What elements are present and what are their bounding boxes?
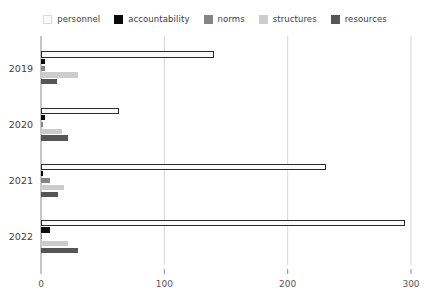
bar-2020-resources	[41, 135, 68, 140]
plot-area: 01002003002019202020212022	[0, 36, 430, 302]
bar-2022-structures	[41, 241, 68, 246]
legend-label-structures: structures	[273, 14, 317, 24]
bar-2020-norms	[41, 122, 43, 127]
bar-2020-accountability	[41, 115, 45, 120]
bar-2021-norms	[41, 178, 50, 183]
bar-2020-structures	[41, 129, 62, 134]
legend-label-personnel: personnel	[57, 14, 100, 24]
bar-2022-accountability	[41, 227, 50, 232]
legend-label-norms: norms	[218, 14, 245, 24]
bar-2021-resources	[41, 192, 58, 197]
legend-swatch-accountability	[114, 15, 123, 24]
legend-item-accountability[interactable]: accountability	[114, 14, 189, 24]
y-tick-label-2022: 2022	[9, 231, 33, 242]
bar-2022-personnel	[41, 221, 405, 226]
bar-2019-personnel	[41, 52, 214, 57]
bar-2021-accountability	[41, 171, 43, 176]
x-tick-label-200: 200	[279, 279, 296, 289]
grouped-bar-chart: personnel accountability norms structure…	[0, 0, 430, 302]
legend-item-structures[interactable]: structures	[259, 14, 317, 24]
bar-2022-norms	[41, 234, 42, 239]
legend-swatch-personnel	[43, 15, 52, 24]
bar-2020-personnel	[41, 108, 119, 113]
legend-swatch-resources	[331, 15, 340, 24]
legend-label-resources: resources	[345, 14, 387, 24]
chart-canvas: 01002003002019202020212022	[0, 36, 430, 302]
bar-2021-structures	[41, 185, 64, 190]
chart-legend: personnel accountability norms structure…	[0, 10, 430, 28]
x-tick-label-300: 300	[402, 279, 419, 289]
legend-label-accountability: accountability	[128, 14, 189, 24]
y-tick-label-2021: 2021	[9, 175, 33, 186]
legend-swatch-structures	[259, 15, 268, 24]
y-tick-label-2019: 2019	[9, 63, 33, 74]
x-tick-label-0: 0	[38, 279, 44, 289]
legend-item-norms[interactable]: norms	[204, 14, 245, 24]
bar-2019-resources	[41, 79, 57, 84]
legend-item-personnel[interactable]: personnel	[43, 14, 100, 24]
bar-2019-accountability	[41, 59, 45, 64]
bar-2022-resources	[41, 248, 78, 253]
y-tick-label-2020: 2020	[9, 119, 33, 130]
legend-swatch-norms	[204, 15, 213, 24]
bar-2021-personnel	[41, 164, 326, 169]
legend-item-resources[interactable]: resources	[331, 14, 387, 24]
bar-2019-norms	[41, 66, 45, 71]
x-tick-label-100: 100	[156, 279, 173, 289]
bar-2019-structures	[41, 72, 78, 77]
